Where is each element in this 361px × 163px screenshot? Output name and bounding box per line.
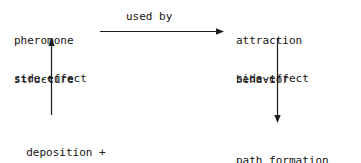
node-path-formation: path formation: [236, 128, 329, 163]
edge-pheromone-to-attraction: [100, 28, 224, 34]
node-attraction-behavior: attraction behavior: [236, 8, 302, 112]
edge-label-side-effect-left: side-effect: [14, 72, 87, 85]
edge-label-used-by: used by: [126, 10, 172, 23]
edge-label-side-effect-right: side-effect: [236, 72, 309, 85]
node-path-formation-line1: path formation: [236, 154, 329, 163]
node-attraction-behavior-line1: attraction: [236, 34, 302, 47]
diagram-canvas: pheromone structure attraction behavior …: [0, 0, 361, 163]
node-pheromone-structure: pheromone structure: [14, 8, 74, 112]
node-deposition-dissipation-food: deposition + dissipation + food: [10, 120, 122, 163]
node-deposition-line: deposition +: [10, 146, 122, 159]
node-pheromone-structure-line1: pheromone: [14, 34, 74, 47]
